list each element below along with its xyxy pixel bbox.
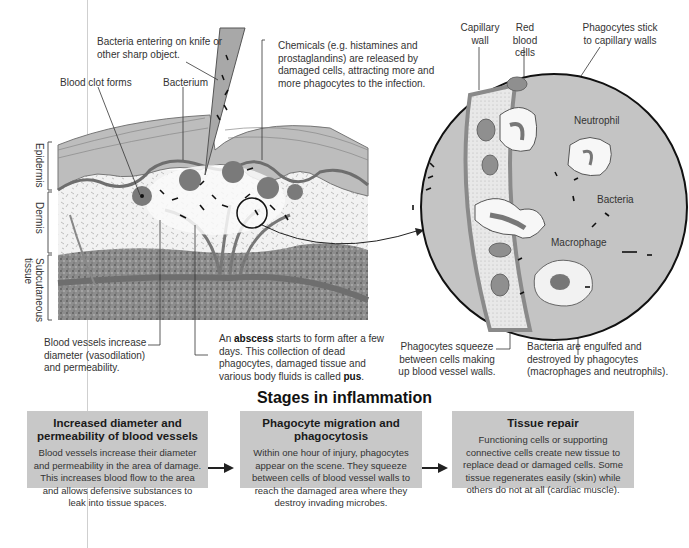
label-neutrophil: Neutrophil [574, 115, 620, 128]
label-bacteria-engulfed: Bacteria are engulfed and destroyed by p… [527, 341, 677, 379]
stage-box-3: Tissue repair Functioning cells or suppo… [452, 411, 634, 488]
stage-1-text: Blood vessels increase their diameter an… [33, 447, 202, 510]
stages-title: Stages in inflammation [0, 389, 689, 407]
label-phagocytes-squeeze: Phagocytes squeeze between cells making … [398, 341, 496, 379]
label-macrophage: Macrophage [551, 237, 607, 250]
stage-2-text: Within one hour of injury, phagocytes ap… [246, 447, 416, 510]
label-dermis: Dermis [34, 202, 45, 234]
pus-term: pus [344, 371, 362, 382]
label-capillary-wall: Capillary wall [458, 22, 502, 47]
stage-1-title: Increased diameter and permeability of b… [33, 417, 202, 443]
microscopic-inset [413, 74, 687, 340]
label-blood-clot: Blood clot forms [60, 77, 132, 90]
arrow-2-to-3 [422, 467, 446, 469]
stage-box-1: Increased diameter and permeability of b… [27, 411, 208, 488]
label-subcutaneous: Subcutaneous tissue [23, 258, 45, 318]
arrow-1-to-2 [208, 467, 232, 469]
label-abscess: An abscess starts to form after a few da… [219, 333, 389, 383]
abscess-term: abscess [234, 333, 273, 344]
label-blood-vessels: Blood vessels increase diameter (vasodil… [44, 337, 164, 375]
stage-3-title: Tissue repair [458, 417, 628, 430]
stage-box-2: Phagocyte migration and phagocytosis Wit… [240, 411, 422, 488]
label-bacteria-entering: Bacteria entering on knife or other shar… [97, 36, 227, 61]
abscess-text-pre: An [219, 333, 234, 344]
label-phagocytes-stick: Phagocytes stick to capillary walls [580, 22, 660, 47]
stage-2-title: Phagocyte migration and phagocytosis [246, 417, 416, 443]
label-chemicals: Chemicals (e.g. histamines and prostagla… [278, 40, 458, 90]
label-red-blood-cells: Red blood cells [503, 22, 547, 60]
stage-3-text: Functioning cells or supporting connecti… [458, 434, 628, 497]
abscess-text-end: . [361, 371, 364, 382]
label-bacteria: Bacteria [597, 194, 634, 207]
label-bacterium: Bacterium [163, 77, 208, 90]
label-epidermis: Epidermis [34, 143, 45, 187]
